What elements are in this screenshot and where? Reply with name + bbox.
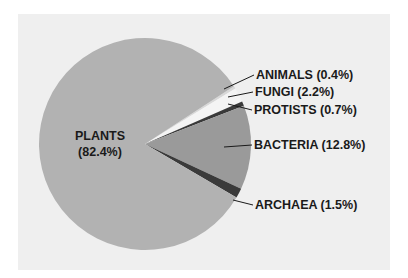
label-fungi: FUNGI (2.2%) — [255, 85, 334, 99]
label-bacteria: BACTERIA (12.8%) — [254, 138, 365, 152]
label-plants: PLANTS — [75, 129, 125, 143]
pie-chart: PLANTS (82.4%) ANIMALS (0.4%) FUNGI (2.2… — [0, 0, 408, 278]
pie-slices — [39, 38, 251, 250]
label-archaea: ARCHAEA (1.5%) — [255, 198, 357, 212]
label-animals: ANIMALS (0.4%) — [256, 68, 353, 82]
label-protists: PROTISTS (0.7%) — [254, 103, 357, 117]
label-plants-percent: (82.4%) — [78, 145, 122, 159]
leader-line-archaea — [233, 200, 253, 205]
